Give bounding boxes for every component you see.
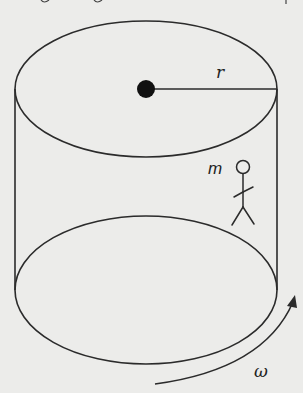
diagram-canvas: r m ω	[0, 0, 303, 393]
cylinder-bottom-ellipse	[15, 216, 277, 364]
mass-label: m	[208, 160, 222, 177]
axis-dot	[137, 80, 155, 98]
cropped-text-fragment	[41, 0, 286, 4]
person-icon	[232, 161, 254, 226]
rotation-arrow-icon	[155, 295, 297, 384]
cylinder-diagram	[0, 0, 303, 393]
angular-velocity-label: ω	[254, 363, 268, 380]
radius-label: r	[216, 64, 224, 81]
